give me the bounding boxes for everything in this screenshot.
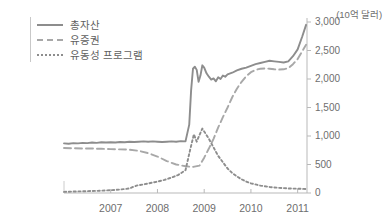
chart-container: (10억 달러) 05001,0001,5002,0002,5003,000 2… (0, 0, 386, 224)
legend-label: 유동성 프로그램 (70, 47, 143, 62)
y-axis-tick-label: 500 (315, 160, 332, 170)
legend-item-liquidity-programs: 유동성 프로그램 (37, 47, 143, 62)
y-axis-unit-label: (10억 달러) (336, 7, 382, 21)
chart-line-series-3 (64, 129, 306, 192)
x-axis-tick-label: 2011 (286, 203, 309, 214)
y-axis-tick-label: 3,000 (315, 17, 340, 27)
legend-item-securities: 유증권 (37, 32, 143, 47)
y-axis-tick-label: 1,500 (315, 103, 340, 113)
legend-line-dotted-icon (37, 50, 63, 60)
x-axis-tick-label: 2009 (193, 203, 216, 214)
legend-item-total-assets: 총자산 (37, 17, 143, 32)
y-axis-tick-label: 0 (315, 188, 321, 198)
chart-line-series-2 (64, 45, 306, 167)
y-axis-tick-label: 1,000 (315, 131, 340, 141)
legend-label: 유증권 (70, 32, 100, 47)
x-axis-tick-label: 2010 (239, 203, 262, 214)
chart-legend: 총자산 유증권 유동성 프로그램 (30, 17, 143, 62)
y-axis-tick-label: 2,000 (315, 74, 340, 84)
legend-line-dashed-icon (37, 35, 63, 45)
legend-label: 총자산 (70, 17, 100, 32)
legend-line-solid-icon (37, 20, 63, 30)
y-axis-tick-label: 2,500 (315, 46, 340, 56)
x-axis-tick-label: 2007 (99, 203, 122, 214)
x-axis-tick-label: 2008 (146, 203, 169, 214)
